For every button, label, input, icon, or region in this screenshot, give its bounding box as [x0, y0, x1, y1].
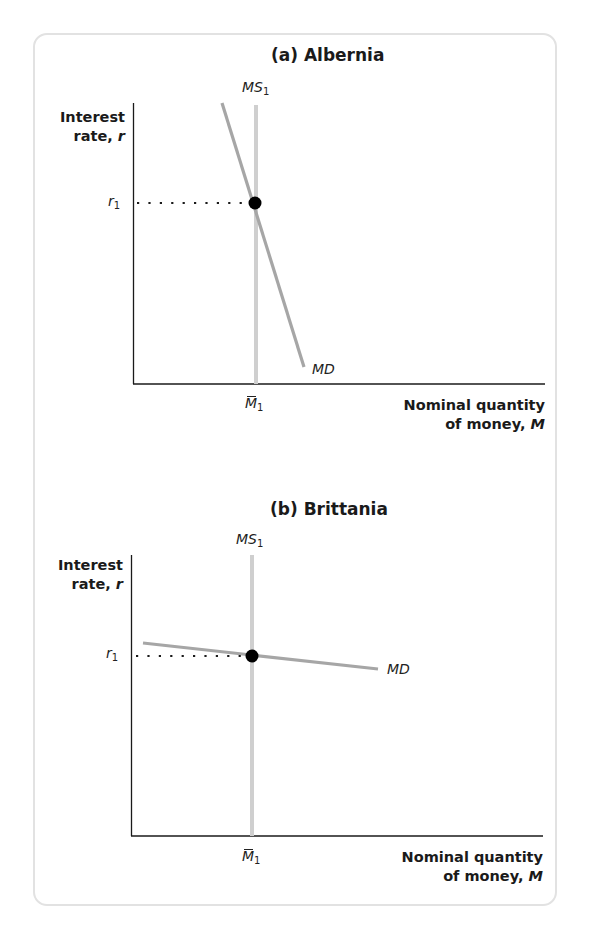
panel-b-plot: [0, 0, 595, 927]
panel-b-r1-label: r1: [106, 645, 118, 663]
panel-b-equilibrium-point: [246, 650, 259, 663]
panel-b-ms1-label: MS1: [236, 531, 263, 549]
panel-b-md-curve: [143, 643, 378, 669]
panel-b-md-label: MD: [387, 661, 410, 677]
panel-b-m1-bar-label: M1: [242, 848, 260, 866]
